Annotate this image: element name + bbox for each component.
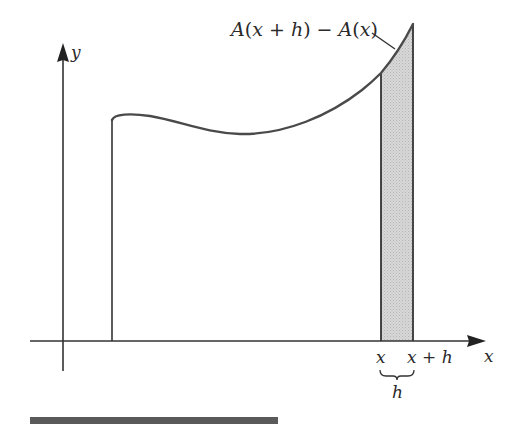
footer-bar — [30, 417, 278, 424]
area-difference-label: A(x + h) − A(x) — [229, 18, 378, 40]
brace-label-h: h — [392, 382, 403, 402]
shaded-strip — [381, 24, 413, 341]
x-axis-label: x — [484, 346, 494, 366]
area-function-diagram: y x A(x + h) − A(x) x x + h h — [0, 0, 519, 431]
tick-label-x-plus-h: x + h — [407, 347, 453, 367]
y-axis-label: y — [70, 42, 81, 62]
function-curve — [112, 24, 413, 134]
y-axis-arrow-icon — [57, 43, 69, 62]
brace-icon — [380, 370, 414, 380]
tick-label-x: x — [376, 347, 386, 367]
